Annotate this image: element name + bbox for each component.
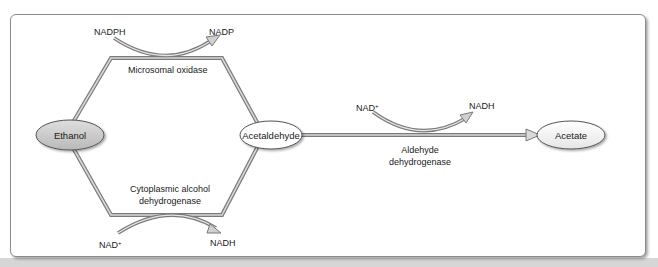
acetate-label: Acetate	[555, 130, 587, 141]
aldehyde-enzyme-line1: Aldehyde	[380, 145, 460, 156]
cytoplasmic-enzyme-line2: dehydrogenase	[120, 196, 220, 207]
acetaldehyde-label: Acetaldehyde	[242, 130, 300, 141]
microsomal-oxidase-label: Microsomal oxidase	[128, 65, 208, 76]
cofactor-arrow-microsomal	[114, 35, 220, 56]
aldehyde-enzyme-line2: dehydrogenase	[380, 157, 460, 168]
acetate-node: Acetate	[537, 125, 605, 145]
nadp-label: NADP	[209, 27, 234, 38]
nadph-label: NADPH	[94, 27, 126, 38]
nad-plus-sup: +	[375, 103, 379, 109]
aldehyde-nadh-label: NADH	[469, 101, 495, 112]
cytoplasmic-enzyme-line1: Cytoplasmic alcohol	[120, 184, 220, 195]
cofactor-arrow-cytoplasmic	[118, 215, 221, 233]
cytoplasmic-nad-label: NAD+	[99, 238, 122, 251]
cytoplasmic-nadh-label: NADH	[210, 238, 236, 249]
acetaldehyde-node: Acetaldehyde	[240, 125, 302, 145]
nad-text: NAD	[99, 240, 118, 250]
nad-text: NAD	[356, 103, 375, 113]
cofactor-arrow-aldehyde	[373, 112, 473, 131]
ethanol-label: Ethanol	[54, 130, 86, 141]
ethanol-node: Ethanol	[36, 125, 104, 145]
nad-plus-sup: +	[118, 240, 122, 246]
aldehyde-nad-label: NAD+	[356, 101, 379, 114]
